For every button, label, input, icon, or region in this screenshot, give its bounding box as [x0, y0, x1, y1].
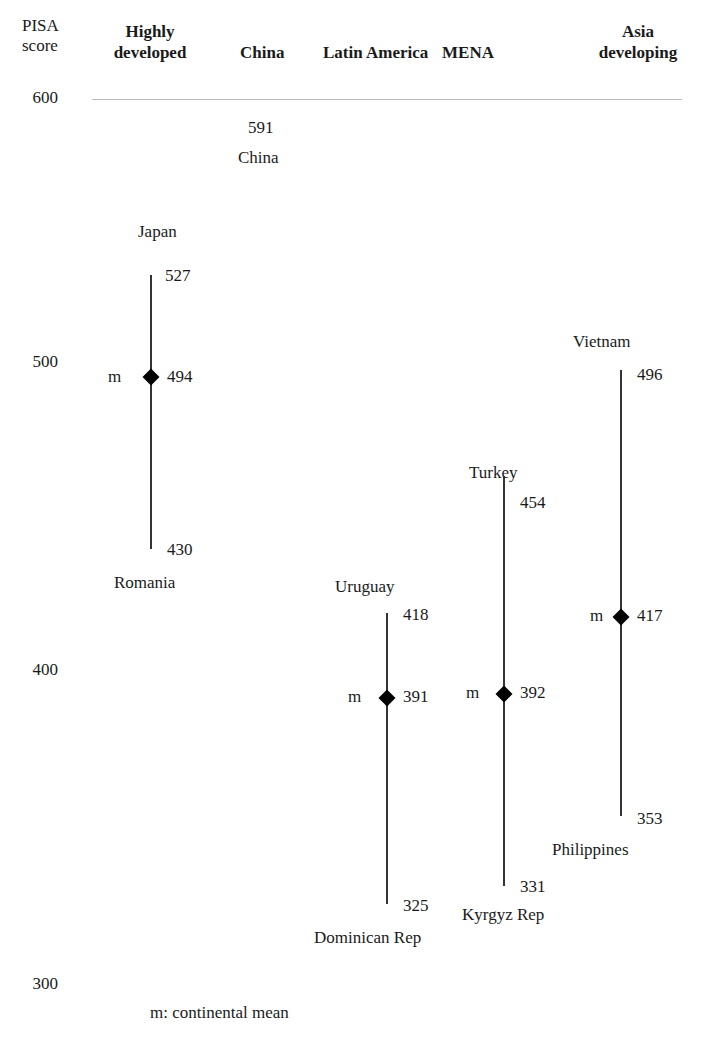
- asia-mean-marker: [613, 609, 630, 626]
- asia-mean-m: m: [590, 606, 603, 626]
- header-china: China: [240, 42, 284, 63]
- header-latin-america: Latin America: [323, 42, 428, 63]
- hd-max-label: Japan: [138, 222, 177, 242]
- mena-mean-marker: [496, 686, 513, 703]
- y-axis-title-line1: PISA: [22, 16, 59, 36]
- header-line: developed: [110, 42, 190, 63]
- mena-min-value: 331: [520, 877, 546, 897]
- header-highly-developed: Highly developed: [110, 21, 190, 63]
- y-tick-600: 600: [8, 88, 58, 108]
- header-line: developing: [578, 42, 698, 63]
- legend-note: m: continental mean: [150, 1003, 289, 1023]
- latam-min-label: Dominican Rep: [314, 928, 421, 948]
- latam-range-line: [386, 613, 388, 904]
- hd-min-label: Romania: [114, 573, 175, 593]
- header-line: Highly: [110, 21, 190, 42]
- asia-range-line: [620, 370, 622, 816]
- header-asia-developing: Asia developing: [578, 21, 698, 63]
- y-axis-title-line2: score: [22, 36, 59, 56]
- latam-max-value: 418: [403, 605, 429, 625]
- mena-mean-value: 392: [520, 683, 546, 703]
- hd-mean-marker: [143, 369, 160, 386]
- hd-mean-m: m: [108, 367, 121, 387]
- latam-max-label: Uruguay: [335, 577, 394, 597]
- mena-range-line: [503, 476, 505, 886]
- hd-range-line: [150, 275, 152, 549]
- asia-max-value: 496: [637, 365, 663, 385]
- y-axis-title: PISA score: [22, 16, 59, 56]
- hd-min-value: 430: [167, 540, 193, 560]
- top-gridline: [92, 99, 682, 100]
- mena-max-value: 454: [520, 493, 546, 513]
- latam-mean-marker: [379, 690, 396, 707]
- y-tick-300: 300: [8, 974, 58, 994]
- mena-min-label: Kyrgyz Rep: [462, 905, 544, 925]
- hd-max-value: 527: [165, 266, 191, 286]
- latam-mean-value: 391: [403, 687, 429, 707]
- latam-min-value: 325: [403, 896, 429, 916]
- asia-min-label: Philippines: [552, 840, 629, 860]
- latam-mean-m: m: [348, 687, 361, 707]
- hd-mean-value: 494: [167, 367, 193, 387]
- asia-min-value: 353: [637, 809, 663, 829]
- china-label: China: [238, 148, 279, 168]
- y-tick-500: 500: [8, 352, 58, 372]
- mena-mean-m: m: [466, 683, 479, 703]
- header-mena: MENA: [442, 42, 494, 63]
- asia-max-label: Vietnam: [573, 332, 631, 352]
- asia-mean-value: 417: [637, 606, 663, 626]
- mena-max-label: Turkey: [469, 463, 518, 483]
- y-tick-400: 400: [8, 660, 58, 680]
- china-value: 591: [248, 118, 274, 138]
- header-line: Asia: [578, 21, 698, 42]
